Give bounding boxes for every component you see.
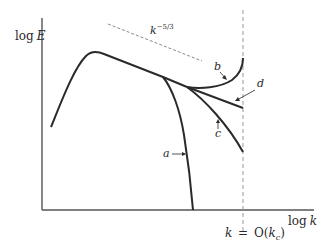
label-c-group: c — [215, 119, 221, 140]
spectrum-main-curve — [51, 52, 187, 127]
x-axis-label: logk — [288, 214, 317, 228]
energy-spectrum-diagram: logE logk k−5/3 k = O(kc) a b d c — [0, 0, 327, 250]
slope-reference-label: k−5/3 — [150, 23, 174, 37]
curve-label-a: a — [163, 147, 170, 160]
label-a-group: a — [163, 147, 186, 160]
curve-label-b: b — [214, 60, 221, 73]
curve-label-d: d — [257, 77, 264, 90]
arrowhead-icon — [182, 152, 186, 156]
y-axis-label: logE — [15, 29, 46, 43]
label-d-group: d — [235, 77, 264, 101]
curve-a — [163, 77, 193, 210]
cutoff-label: k = O(kc) — [225, 226, 285, 242]
label-b-group: b — [214, 60, 227, 80]
curve-d — [187, 87, 243, 108]
